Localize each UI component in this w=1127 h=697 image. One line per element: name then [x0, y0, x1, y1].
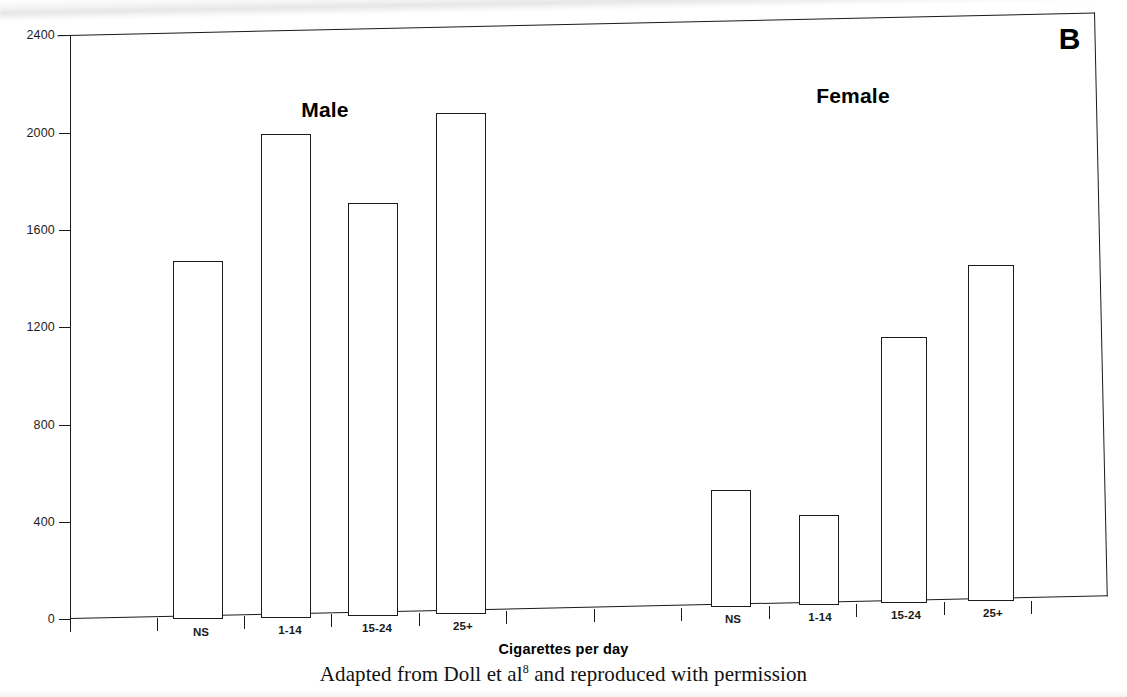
- figure-panel-b: 0 400 800 1200 1600 2000 2400 NS 1-14 15…: [0, 0, 1127, 697]
- x-label-female-1-14: 1-14: [808, 611, 831, 623]
- x-tick-7: [594, 609, 595, 622]
- y-tick-800: [59, 425, 70, 426]
- y-tick-2400: [59, 35, 70, 36]
- y-axis-label-1600: 1600: [26, 223, 55, 237]
- y-tick-1200: [59, 327, 70, 328]
- bar-female-ns: [711, 490, 751, 607]
- y-axis-label-2000: 2000: [26, 126, 55, 140]
- x-tick-9: [769, 606, 770, 619]
- x-label-female-15-24: 15-24: [891, 609, 921, 621]
- x-tick-8: [681, 608, 682, 621]
- bar-male-15-24: [348, 203, 398, 616]
- bar-female-15-24: [881, 337, 927, 603]
- x-axis-title: Cigarettes per day: [0, 641, 1127, 657]
- y-tick-400: [59, 522, 70, 523]
- group-label-female: Female: [816, 84, 890, 108]
- figure-caption: Adapted from Doll et al8 and reproduced …: [0, 662, 1127, 687]
- x-label-male-ns: NS: [193, 626, 209, 638]
- bar-female-1-14: [799, 515, 839, 605]
- x-tick-3: [244, 616, 245, 629]
- x-tick-11: [944, 602, 945, 615]
- x-label-female-25plus: 25+: [983, 607, 1003, 619]
- plot-area: [0, 0, 1127, 697]
- x-tick-6: [506, 611, 507, 624]
- caption-text-before: Adapted from Doll et al: [320, 662, 523, 686]
- y-axis-label-1200: 1200: [26, 320, 55, 334]
- y-axis-label-2400: 2400: [26, 28, 55, 42]
- x-tick-2: [157, 618, 158, 631]
- caption-text-after: and reproduced with permission: [529, 662, 807, 686]
- x-label-male-15-24: 15-24: [362, 622, 392, 634]
- bar-male-25plus: [436, 113, 486, 614]
- y-axis-label-400: 400: [34, 515, 55, 529]
- y-tick-0: [59, 619, 70, 620]
- x-tick-5: [419, 613, 420, 626]
- panel-label-b: B: [1059, 22, 1081, 56]
- y-tick-1600: [59, 230, 70, 231]
- bar-male-1-14: [261, 134, 311, 618]
- x-label-male-1-14: 1-14: [278, 624, 301, 636]
- bar-female-25plus: [968, 265, 1014, 601]
- bar-male-ns: [173, 261, 223, 619]
- x-tick-12: [1031, 601, 1032, 614]
- y-axis-label-0: 0: [48, 612, 55, 626]
- x-label-male-25plus: 25+: [453, 620, 473, 632]
- y-axis-line: [70, 35, 71, 619]
- x-label-female-ns: NS: [725, 613, 741, 625]
- x-tick-1: [70, 619, 71, 632]
- y-axis-label-800: 800: [34, 418, 55, 432]
- x-tick-4: [331, 614, 332, 627]
- x-tick-10: [856, 604, 857, 617]
- group-label-male: Male: [301, 98, 349, 122]
- y-tick-2000: [59, 133, 70, 134]
